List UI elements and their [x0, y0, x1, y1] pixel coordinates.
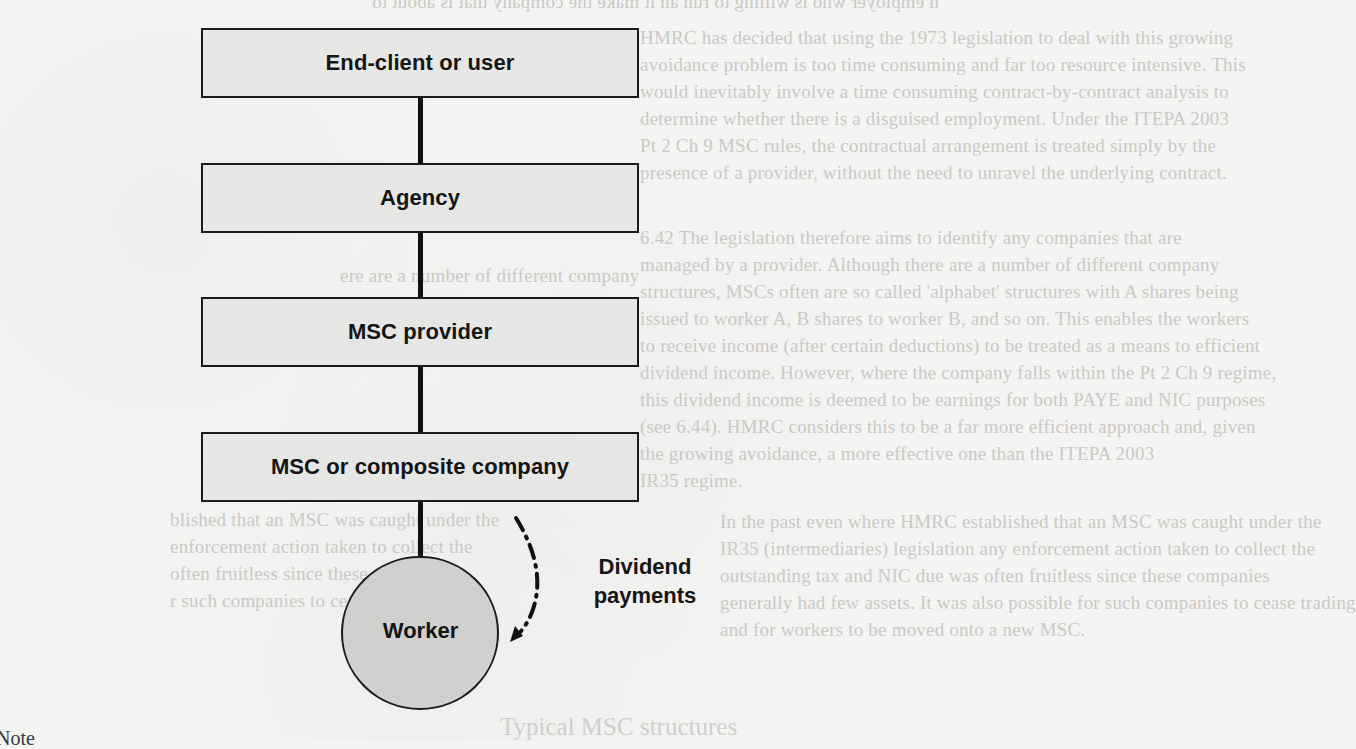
connector-line: [418, 231, 423, 299]
node-label: MSC or composite company: [271, 454, 569, 480]
dividend-label-line2: payments: [578, 581, 712, 610]
node-agency: Agency: [201, 163, 639, 233]
node-label: End-client or user: [326, 50, 515, 76]
dividend-payments-label: Dividend payments: [578, 552, 712, 610]
node-worker-label: Worker: [342, 618, 499, 644]
connector-line: [418, 500, 423, 558]
node-label: Agency: [380, 185, 460, 211]
node-msc-provider: MSC provider: [201, 297, 639, 367]
node-end-client: End-client or user: [201, 28, 639, 98]
node-label: MSC provider: [348, 319, 492, 345]
connector-line: [418, 96, 423, 165]
dividend-arrow: [515, 518, 537, 637]
node-msc-company: MSC or composite company: [201, 432, 639, 502]
dividend-label-line1: Dividend: [578, 552, 712, 581]
arrowhead-icon: [510, 626, 523, 642]
connector-line: [418, 365, 423, 434]
